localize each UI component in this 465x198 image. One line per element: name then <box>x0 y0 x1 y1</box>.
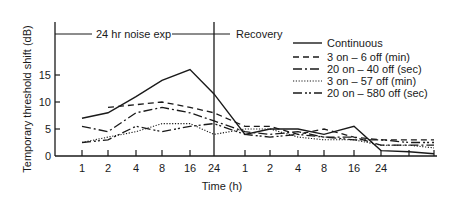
legend-label: 3 on – 57 off (min) <box>327 75 416 87</box>
x-tick-label: 24 <box>208 162 220 174</box>
recovery-label: Recovery <box>236 28 283 40</box>
legend-label: Continuous <box>327 37 383 49</box>
x-tick-label: 24 <box>375 162 387 174</box>
phase-annotation-exposure: 24 hr noise exp <box>55 28 214 40</box>
x-tick-label: 4 <box>295 162 301 174</box>
x-tick-label: 4 <box>133 162 139 174</box>
x-tick-label: 2 <box>267 162 273 174</box>
x-tick-label: 1 <box>79 162 85 174</box>
x-axis-title: Time (h) <box>202 180 243 192</box>
legend-label: 20 on – 580 off (sec) <box>327 87 428 99</box>
x-tick-label: 2 <box>105 162 111 174</box>
legend-label: 3 on – 6 off (min) <box>327 51 410 63</box>
y-tick-label: 0 <box>45 150 51 162</box>
x-tick-label: 1 <box>242 162 248 174</box>
x-tick-label: 16 <box>184 162 196 174</box>
y-tick-labels: 0 5 10 15 <box>39 69 51 162</box>
x-tick-labels: 1 2 4 8 16 24 1 2 4 8 16 24 <box>79 162 387 174</box>
y-ticks <box>55 75 60 129</box>
x-tick-label: 8 <box>321 162 327 174</box>
y-tick-label: 10 <box>39 96 51 108</box>
x-tick-label: 8 <box>159 162 165 174</box>
exposure-label: 24 hr noise exp <box>96 28 171 40</box>
x-tick-label: 16 <box>348 162 360 174</box>
y-tick-label: 5 <box>45 123 51 135</box>
chart-figure: 0 5 10 15 1 2 4 8 16 24 1 2 4 8 16 24 Ti… <box>0 0 465 198</box>
y-axis-title: Temporary threshold shift (dB) <box>21 25 33 172</box>
legend-label: 20 on – 40 off (sec) <box>327 63 422 75</box>
legend: Continuous3 on – 6 off (min)20 on – 40 o… <box>293 37 428 99</box>
phase-annotation-recovery: Recovery <box>214 28 283 40</box>
y-tick-label: 15 <box>39 69 51 81</box>
